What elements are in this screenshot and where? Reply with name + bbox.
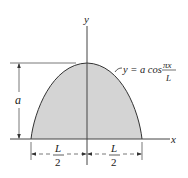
arrow-right-icon [82, 152, 87, 155]
left-half-denominator: 2 [55, 156, 61, 168]
diagram-canvas: a L 2 L 2 y x y = a cos πx L [0, 0, 188, 178]
right-half-numerator: L [110, 142, 117, 154]
right-half-denominator: 2 [111, 156, 117, 168]
arrow-left-icon [31, 152, 36, 155]
arrow-right-icon [137, 152, 142, 155]
height-label: a [15, 93, 21, 107]
arrow-down-icon [17, 134, 21, 139]
equation-denominator: L [165, 73, 171, 83]
left-half-numerator: L [54, 142, 61, 154]
x-axis-label: x [170, 133, 176, 145]
equation-numerator: πx [163, 60, 172, 70]
y-axis-label: y [83, 13, 89, 25]
equation-leader-line [115, 68, 122, 72]
equation-lhs: y = a cos [122, 64, 162, 75]
arrow-left-icon [87, 152, 92, 155]
arrow-up-icon [17, 63, 21, 68]
